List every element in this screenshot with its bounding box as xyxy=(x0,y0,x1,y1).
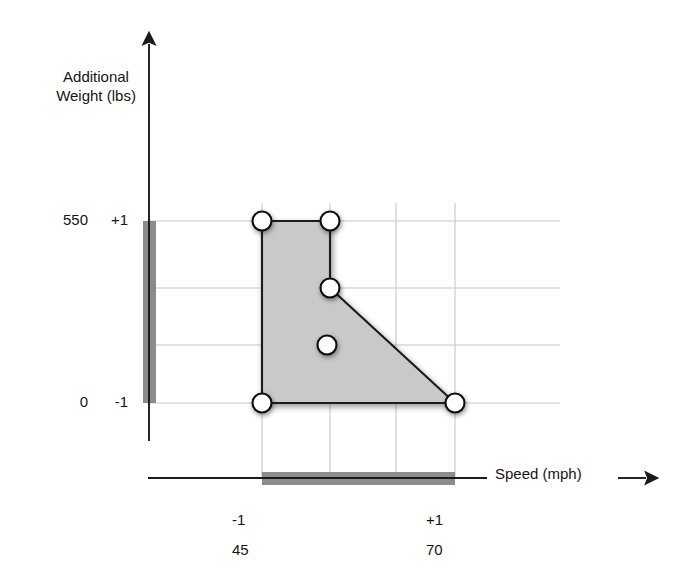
design-point-p2[interactable] xyxy=(321,212,340,231)
design-space-figure: Additional Weight (lbs) Speed (mph) 550 … xyxy=(0,0,674,586)
x-tick-label-real-low: 45 xyxy=(232,541,276,560)
x-axis-title: Speed (mph) xyxy=(495,465,582,484)
design-point-p5[interactable] xyxy=(253,394,272,413)
x-tick-label-real-high: 70 xyxy=(426,541,470,560)
x-tick-label-coded-low: -1 xyxy=(232,511,276,530)
y-tick-label-real-top: 550 xyxy=(44,211,88,230)
y-tick-label-coded-top: +1 xyxy=(98,211,128,230)
design-point-p3[interactable] xyxy=(321,279,340,298)
design-point-p6[interactable] xyxy=(446,394,465,413)
design-point-p4[interactable] xyxy=(318,336,337,355)
y-axis-title: Additional Weight (lbs) xyxy=(36,68,156,106)
design-point-p1[interactable] xyxy=(253,212,272,231)
x-tick-label-coded-high: +1 xyxy=(426,511,470,530)
feasible-region-polygon xyxy=(262,221,455,403)
y-tick-label-coded-bottom: -1 xyxy=(98,393,128,412)
y-tick-label-real-bottom: 0 xyxy=(44,393,88,412)
